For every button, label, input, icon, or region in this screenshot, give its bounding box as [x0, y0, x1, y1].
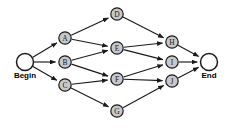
node-label-J: J [171, 77, 174, 86]
node-label-H: H [169, 38, 175, 47]
edge-E-to-H [124, 43, 163, 47]
node-G[interactable]: G [111, 105, 123, 117]
node-D[interactable]: D [111, 8, 123, 20]
node-F[interactable]: F [111, 73, 123, 85]
node-label-F: F [115, 75, 119, 84]
node-label-B: B [62, 58, 67, 67]
edge-A-to-D [71, 18, 108, 35]
edge-F-to-I [124, 65, 164, 77]
node-I[interactable]: I [166, 56, 178, 68]
node-label-G: G [114, 107, 120, 116]
node-label-end: End [201, 71, 216, 80]
edge-begin-to-A [33, 43, 57, 57]
edge-J-to-end [178, 67, 199, 78]
node-A[interactable]: A [59, 32, 71, 44]
node-circle-begin[interactable] [17, 54, 34, 71]
activity-network-graph: BeginABCDEFGHIJEnd [0, 0, 227, 128]
node-circle-end[interactable] [201, 54, 218, 71]
node-H[interactable]: H [166, 36, 178, 48]
node-B[interactable]: B [59, 56, 71, 68]
node-end[interactable]: End [201, 54, 218, 81]
node-begin[interactable]: Begin [14, 54, 36, 81]
edge-F-to-J [124, 79, 163, 80]
edge-B-to-F [71, 64, 108, 76]
node-C[interactable]: C [59, 79, 71, 91]
node-label-A: A [62, 34, 68, 43]
edge-B-to-E [72, 50, 108, 60]
node-label-D: D [114, 10, 120, 19]
edge-C-to-G [71, 88, 109, 107]
edge-D-to-H [123, 17, 164, 38]
edge-G-to-J [123, 86, 164, 108]
node-label-E: E [115, 44, 120, 53]
edge-begin-to-C [33, 67, 57, 81]
diagram-canvas: BeginABCDEFGHIJEnd [0, 0, 227, 128]
node-label-C: C [62, 81, 67, 90]
edge-C-to-F [72, 80, 108, 84]
edge-E-to-I [124, 50, 163, 60]
node-J[interactable]: J [166, 75, 178, 87]
edge-A-to-E [72, 39, 108, 46]
edge-H-to-end [178, 45, 199, 56]
node-E[interactable]: E [111, 42, 123, 54]
node-label-begin: Begin [14, 71, 36, 80]
